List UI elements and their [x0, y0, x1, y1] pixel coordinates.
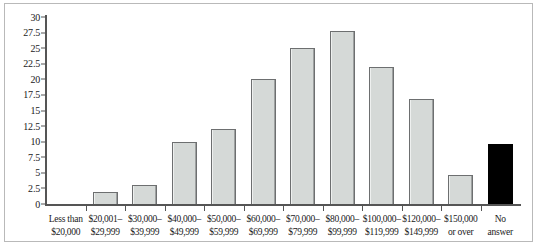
- bar[interactable]: [488, 144, 513, 204]
- x-tick-mark: [86, 206, 87, 211]
- y-tick: 5: [5, 172, 46, 173]
- y-tick-label: 20: [30, 74, 40, 85]
- y-tick-label: 30: [30, 12, 40, 23]
- bar-slot: [244, 17, 284, 204]
- bar[interactable]: [448, 175, 473, 204]
- bar[interactable]: [290, 48, 315, 204]
- y-tick-label: 0: [35, 199, 40, 210]
- x-tick-mark: [165, 206, 166, 211]
- x-axis-labels: Less than$20,000$20,001–$29,999$30,000–$…: [46, 213, 521, 251]
- y-tick-label: 15: [30, 105, 40, 116]
- bar[interactable]: [409, 99, 434, 204]
- y-tick: 7.5: [5, 157, 46, 158]
- y-tick: 12.5: [5, 126, 46, 127]
- y-tick: 0: [5, 204, 46, 205]
- y-tick: 20: [5, 79, 46, 80]
- y-tick-label: 25: [30, 43, 40, 54]
- x-tick-mark: [283, 206, 284, 211]
- y-tick-label: 7.5: [28, 152, 40, 163]
- bar[interactable]: [211, 129, 236, 204]
- x-tick-mark: [481, 206, 482, 211]
- y-tick-label: 12.5: [23, 121, 40, 132]
- y-tick-label: 22.5: [23, 58, 40, 69]
- bar-slot: [362, 17, 402, 204]
- y-tick: 27.5: [5, 32, 46, 33]
- x-tick-mark: [125, 206, 126, 211]
- bar-slot: [204, 17, 244, 204]
- bar-slot: [165, 17, 205, 204]
- bar-slot: [402, 17, 442, 204]
- x-tick-mark: [362, 206, 363, 211]
- x-tick-mark: [441, 206, 442, 211]
- y-tick: 30: [5, 17, 46, 18]
- bar[interactable]: [132, 185, 157, 204]
- bar-slot: [46, 17, 86, 204]
- bar-slot: [283, 17, 323, 204]
- x-axis-category-label: Noanswer: [475, 213, 527, 239]
- bar-slot: [481, 17, 521, 204]
- bar-slot: [441, 17, 481, 204]
- x-tick-mark: [244, 206, 245, 211]
- y-tick: 17.5: [5, 94, 46, 95]
- bar[interactable]: [369, 67, 394, 204]
- bar[interactable]: [172, 142, 197, 204]
- x-tick-mark: [402, 206, 403, 211]
- y-tick-label: 27.5: [23, 27, 40, 38]
- y-tick: 22.5: [5, 63, 46, 64]
- y-tick: 25: [5, 48, 46, 49]
- x-axis-category-label-line: No: [475, 213, 527, 226]
- bar[interactable]: [93, 192, 118, 204]
- y-tick-label: 5: [35, 167, 40, 178]
- bar-slot: [125, 17, 165, 204]
- bar-slot: [86, 17, 126, 204]
- y-tick: 15: [5, 110, 46, 111]
- bar[interactable]: [251, 79, 276, 204]
- x-axis-category-label-line: answer: [475, 226, 527, 239]
- chart-figure: 02.557.51012.51517.52022.52527.530 Less …: [4, 3, 533, 242]
- y-tick-label: 10: [30, 136, 40, 147]
- bar[interactable]: [330, 31, 355, 204]
- plot-area: [46, 17, 520, 204]
- bar-slot: [323, 17, 363, 204]
- y-tick-label: 2.5: [28, 183, 40, 194]
- y-tick-label: 17.5: [23, 89, 40, 100]
- y-tick: 2.5: [5, 188, 46, 189]
- y-tick: 10: [5, 141, 46, 142]
- x-tick-mark: [323, 206, 324, 211]
- x-tick-mark: [204, 206, 205, 211]
